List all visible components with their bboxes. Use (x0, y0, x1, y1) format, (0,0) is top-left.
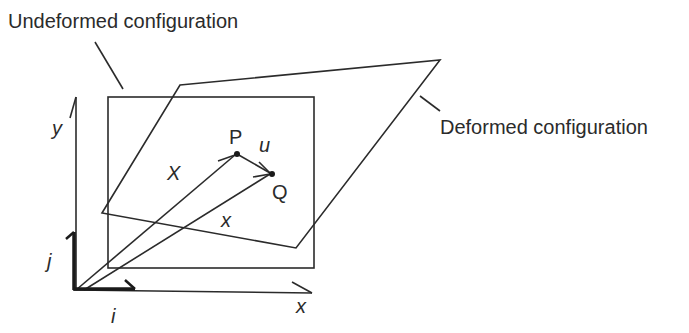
y-axis-label: y (52, 118, 62, 138)
point-p-label: P (229, 127, 242, 147)
undeformed-leader-line (95, 42, 123, 89)
point-q-dot (269, 171, 275, 177)
x-axis-label: x (296, 296, 306, 316)
deformed-parallelogram (102, 60, 440, 248)
y-axis-arrowhead-icon (70, 97, 76, 118)
deformation-diagram (0, 0, 689, 333)
point-p-dot (234, 151, 240, 157)
deformed-configuration-label: Deformed configuration (440, 117, 648, 137)
position-x-label: x (221, 210, 231, 230)
vector-X (76, 155, 235, 290)
point-q-label: Q (272, 182, 288, 202)
vector-u (237, 154, 270, 173)
deformed-leader-line (420, 96, 440, 111)
unit-j-label: j (47, 251, 51, 271)
vector-x (84, 174, 270, 290)
x-axis-arrowhead-icon (292, 282, 312, 293)
unit-i-label: i (111, 306, 115, 326)
position-X-label: X (167, 163, 180, 183)
undeformed-configuration-label: Undeformed configuration (8, 11, 238, 31)
displacement-u-label: u (259, 135, 270, 155)
